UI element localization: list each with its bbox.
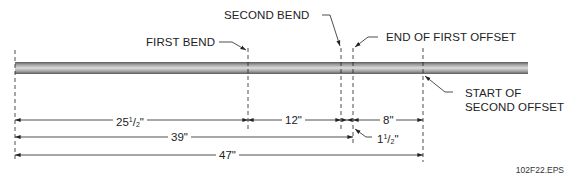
figure-id: 102F22.EPS bbox=[516, 165, 564, 175]
dim-39-text: 39" bbox=[168, 131, 191, 143]
one-half-leader bbox=[355, 129, 372, 137]
dim-25-half-text: 251/2" bbox=[113, 114, 147, 131]
conduit-pipe bbox=[15, 62, 528, 74]
second-bend-label: SECOND BEND bbox=[224, 8, 309, 22]
end-first-offset-leader bbox=[355, 37, 378, 47]
dim-12-text: 12" bbox=[282, 114, 305, 126]
end-first-offset-label: END OF FIRST OFFSET bbox=[386, 30, 516, 44]
start-second-offset-label-1: START OF bbox=[465, 86, 521, 100]
first-bend-leader bbox=[219, 42, 246, 50]
second-bend-leader bbox=[322, 15, 340, 46]
dim-8-text: 8" bbox=[380, 114, 396, 126]
dim-47-text: 47" bbox=[216, 149, 239, 161]
first-bend-label: FIRST BEND bbox=[146, 35, 215, 49]
start-second-offset-label-2: SECOND OFFSET bbox=[465, 100, 564, 114]
start-second-offset-leader bbox=[425, 76, 453, 92]
dim-1-half-text: 11/2" bbox=[374, 131, 402, 148]
